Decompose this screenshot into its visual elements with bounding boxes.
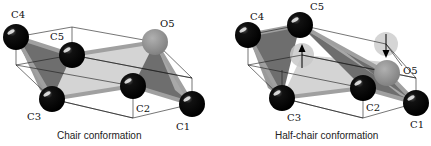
half-chair-caption: Half-chair conformation xyxy=(275,130,378,141)
half-chair-label-c1: C1 xyxy=(410,119,424,130)
half-chair-atom-o5 xyxy=(374,60,400,86)
chair-label-c4: C4 xyxy=(11,9,25,20)
half-chair-label-c5: C5 xyxy=(310,1,324,12)
chair-atom-c3 xyxy=(39,86,65,112)
half-chair-atom-c3 xyxy=(269,85,295,111)
chair-label-c2: C2 xyxy=(136,103,150,114)
chair-atom-o5 xyxy=(142,29,168,55)
half-chair-atom-c2 xyxy=(350,75,376,101)
half-chair-label-c4: C4 xyxy=(250,11,264,22)
chair-caption: Chair conformation xyxy=(57,130,141,141)
half-chair-atom-c1 xyxy=(403,90,429,116)
conformation-diagram: C4 C5 O5 C2 C3 C1 Chair conformation C4 … xyxy=(0,0,431,146)
chair-atom-c1 xyxy=(179,91,205,117)
half-chair-label-o5: O5 xyxy=(403,65,418,76)
chair-atom-c4 xyxy=(3,24,29,50)
half-chair-label-c2: C2 xyxy=(366,102,380,113)
chair-label-o5: O5 xyxy=(160,18,175,29)
chair-label-c3: C3 xyxy=(27,111,41,122)
chair-label-c5: C5 xyxy=(50,31,64,42)
chair-atom-c2 xyxy=(120,73,146,99)
half-chair-atom-c5 xyxy=(287,12,313,38)
chair-label-c1: C1 xyxy=(176,121,190,132)
half-chair-atom-c4 xyxy=(235,22,261,48)
half-chair-label-c3: C3 xyxy=(287,112,301,123)
chair-atom-c5 xyxy=(59,42,85,68)
